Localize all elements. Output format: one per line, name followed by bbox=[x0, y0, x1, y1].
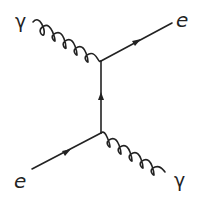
label-electron-in: e bbox=[14, 171, 26, 191]
arrow-propagator-icon bbox=[98, 92, 104, 100]
arrow-incoming-electron-icon bbox=[62, 149, 71, 156]
feynman-diagram: γ e e γ bbox=[0, 0, 198, 205]
label-photon-in: γ bbox=[15, 12, 26, 31]
label-electron-out: e bbox=[176, 10, 188, 30]
label-photon-out: γ bbox=[174, 171, 185, 190]
arrow-outgoing-electron-icon bbox=[132, 39, 141, 46]
outgoing-photon-line bbox=[101, 132, 165, 175]
diagram-canvas bbox=[0, 0, 198, 205]
incoming-photon-line bbox=[33, 20, 101, 62]
